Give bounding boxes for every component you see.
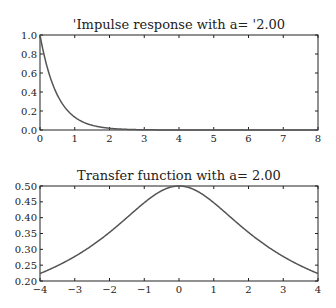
x-tick-label: 3 xyxy=(280,284,286,295)
x-tick-label: 3 xyxy=(141,133,147,144)
y-tick-label: 0.40 xyxy=(15,212,37,223)
x-tick-label: 2 xyxy=(245,284,251,295)
x-tick-label: 8 xyxy=(315,133,321,144)
y-tick-label: 0.30 xyxy=(15,244,37,255)
axes-frame xyxy=(40,35,318,130)
chart-title: Transfer function with a= 2.00 xyxy=(77,168,281,183)
x-tick-label: 5 xyxy=(211,133,217,144)
x-tick-label: 4 xyxy=(176,133,182,144)
x-tick-label: 2 xyxy=(106,133,112,144)
chart-title: 'Impulse response with a= '2.00 xyxy=(73,17,285,32)
x-tick-label: 1 xyxy=(211,284,217,295)
x-tick-label: −2 xyxy=(102,284,117,295)
x-tick-label: 1 xyxy=(72,133,78,144)
data-line xyxy=(40,186,318,274)
y-tick-label: 0.0 xyxy=(21,125,37,136)
transfer-function-plot: Transfer function with a= 2.00−4−3−2−101… xyxy=(15,168,321,295)
y-tick-label: 0.2 xyxy=(21,106,37,117)
y-tick-label: 0.8 xyxy=(21,49,37,60)
data-line xyxy=(40,35,318,130)
x-tick-label: 6 xyxy=(245,133,251,144)
x-tick-label: 0 xyxy=(37,133,43,144)
x-tick-label: −1 xyxy=(137,284,152,295)
y-tick-label: 0.20 xyxy=(15,276,37,287)
impulse-response-plot: 'Impulse response with a= '2.00012345678… xyxy=(21,17,321,144)
y-tick-label: 0.45 xyxy=(15,196,37,207)
x-tick-label: 4 xyxy=(315,284,321,295)
y-tick-label: 0.25 xyxy=(15,260,37,271)
x-tick-label: 0 xyxy=(176,284,182,295)
y-tick-label: 1.0 xyxy=(21,30,37,41)
chart-figure: 'Impulse response with a= '2.00012345678… xyxy=(0,0,336,308)
y-tick-label: 0.6 xyxy=(21,68,37,79)
x-tick-label: 7 xyxy=(280,133,286,144)
y-tick-label: 0.35 xyxy=(15,228,37,239)
axes-frame xyxy=(40,186,318,281)
y-tick-label: 0.50 xyxy=(15,181,37,192)
x-tick-label: −3 xyxy=(67,284,82,295)
y-tick-label: 0.4 xyxy=(21,87,37,98)
